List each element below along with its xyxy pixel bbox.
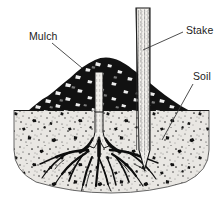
leader-line-mulch xyxy=(52,43,82,68)
trunk-upper xyxy=(95,72,103,112)
trunk-above-mulch xyxy=(95,72,103,112)
diagram-canvas: Mulch Stake Soil xyxy=(0,0,223,201)
tree-planting-diagram: Mulch Stake Soil xyxy=(0,0,223,201)
mulch-mound xyxy=(28,57,190,112)
soil-block xyxy=(14,110,209,193)
label-soil: Soil xyxy=(193,70,211,82)
label-stake: Stake xyxy=(186,24,213,36)
soil-pebbles xyxy=(14,110,209,193)
label-mulch: Mulch xyxy=(29,30,58,42)
